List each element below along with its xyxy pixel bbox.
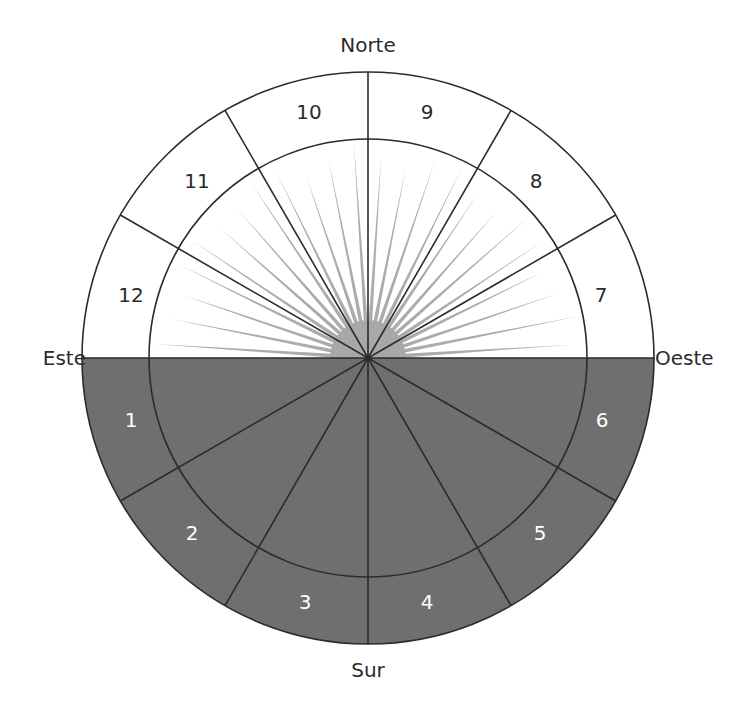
direction-north-label: Norte — [340, 33, 396, 57]
sector-divider-line — [368, 110, 511, 358]
sector-label-3: 3 — [299, 590, 312, 614]
sun-rays — [154, 144, 578, 358]
sector-label-7: 7 — [595, 283, 608, 307]
sector-label-8: 8 — [530, 169, 543, 193]
sector-label-2: 2 — [186, 521, 199, 545]
sector-label-12: 12 — [118, 283, 143, 307]
sector-label-10: 10 — [296, 100, 321, 124]
direction-south-label: Sur — [351, 658, 385, 682]
sector-divider-line — [368, 215, 616, 358]
sun-path-sector-diagram: 123456789101112 Norte Sur Este Oeste — [0, 0, 752, 715]
sector-divider-line — [225, 110, 368, 358]
sector-label-11: 11 — [184, 169, 209, 193]
sector-divider-line — [120, 215, 368, 358]
sector-label-5: 5 — [534, 521, 547, 545]
sector-label-4: 4 — [421, 590, 434, 614]
sector-label-6: 6 — [596, 408, 609, 432]
center-point — [365, 355, 371, 361]
direction-west-label: Oeste — [655, 346, 714, 370]
direction-east-label: Este — [43, 346, 86, 370]
sector-label-1: 1 — [125, 408, 138, 432]
sector-label-9: 9 — [421, 100, 434, 124]
